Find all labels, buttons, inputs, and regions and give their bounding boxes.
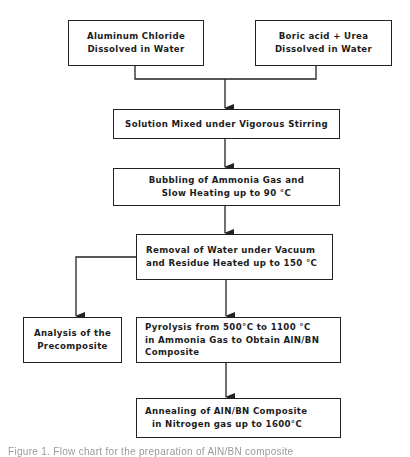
node-text: Dissolved in Water [275,43,372,56]
node-text: in Ammonia Gas to Obtain AlN/BN [145,334,319,347]
node-pyrolysis: Pyrolysis from 500°C to 1100 °C in Ammon… [136,317,341,363]
node-aluminum-chloride: Aluminum Chloride Dissolved in Water [68,20,204,66]
node-text: Precomposite [37,340,108,353]
node-text: Analysis of the [34,327,111,340]
node-text: in Nitrogen gas up to 1600°C [145,418,302,431]
node-annealing: Annealing of AlN/BN Composite in Nitroge… [136,398,341,438]
connector-aluminum-to-merge [135,65,316,79]
node-text: Bubbling of Ammonia Gas and [149,174,305,187]
node-text: Composite [145,346,199,359]
node-text: Slow Heating up to 90 °C [162,187,291,200]
arrow-removal-to-analysis [76,257,136,316]
figure-caption: Figure 1. Flow chart for the preparation… [8,446,408,457]
node-text: Dissolved in Water [87,43,184,56]
node-text: Solution Mixed under Vigorous Stirring [125,118,328,131]
node-boric-acid-urea: Boric acid + Urea Dissolved in Water [255,20,392,66]
node-text: Annealing of AlN/BN Composite [145,405,307,418]
node-text: Removal of Water under Vacuum [146,244,315,257]
node-analysis-precomposite: Analysis of the Precomposite [23,317,122,363]
node-text: and Residue Heated up to 150 °C [146,257,317,270]
node-text: Boric acid + Urea [279,30,369,43]
node-text: Pyrolysis from 500°C to 1100 °C [145,321,311,334]
node-ammonia-bubbling: Bubbling of Ammonia Gas and Slow Heating… [113,168,340,206]
node-water-removal: Removal of Water under Vacuum and Residu… [136,234,333,280]
node-solution-mixed: Solution Mixed under Vigorous Stirring [113,109,340,139]
node-text: Aluminum Chloride [87,30,185,43]
